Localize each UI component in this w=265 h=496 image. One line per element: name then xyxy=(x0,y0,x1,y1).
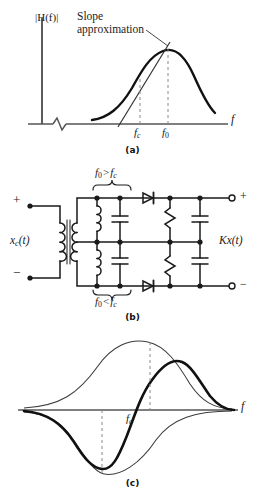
magnitude-response-curve xyxy=(92,50,215,120)
x-axis-label: f xyxy=(231,113,234,127)
filter-capacitor-upper xyxy=(192,198,208,242)
load-resistor-upper xyxy=(165,198,175,242)
transformer-secondary-coil-upper xyxy=(72,223,77,242)
tick-label-fc: fc xyxy=(126,412,133,426)
annotation-leader-line xyxy=(146,30,168,46)
output-terminal-minus-circle xyxy=(229,283,235,289)
upper-tank-brace xyxy=(93,180,131,190)
panel-b-caption: (b) xyxy=(0,312,265,322)
slope-approximation-annotation: Slope approximation xyxy=(77,10,144,36)
transformer-secondary-coil-lower xyxy=(71,242,77,261)
panel-b-circuit-diagram: + − xc(t) + − Kx(t) f0>fc f0<fc (b) xyxy=(0,168,265,328)
tank-capacitor-upper xyxy=(112,198,128,242)
lower-tank-frequency-label: f0<fc xyxy=(95,295,117,309)
input-wire-top xyxy=(30,206,60,223)
tick-label-f0: f0 xyxy=(162,126,169,140)
load-resistor-lower xyxy=(165,242,175,286)
output-terminal-plus-circle xyxy=(229,195,235,201)
zigzag-break-icon xyxy=(53,118,66,130)
tank-inductor-lower xyxy=(97,242,101,286)
slope-approximation-tangent xyxy=(118,42,170,127)
input-terminal-plus-label: + xyxy=(13,193,20,208)
panel-c-caption: (c) xyxy=(0,478,265,488)
filter-capacitor-lower xyxy=(192,242,208,286)
x-axis-label: f xyxy=(241,400,244,414)
input-terminal-minus-label: − xyxy=(13,266,20,281)
input-signal-label: xc(t) xyxy=(10,234,30,249)
output-terminal-plus-label: + xyxy=(240,190,247,204)
upper-response-curve xyxy=(24,341,232,409)
secondary-top-rail xyxy=(77,198,200,223)
output-terminal-minus-label: − xyxy=(240,278,247,292)
output-signal-label: Kx(t) xyxy=(219,234,243,247)
secondary-bottom-rail xyxy=(77,261,200,286)
y-axis-label: |H(f)| xyxy=(35,11,58,24)
tick-label-fc: fc xyxy=(134,126,141,140)
panel-a-magnitude-response: |H(f)| Slope approximation f fc f0 (a) xyxy=(0,0,265,168)
panel-a-caption: (a) xyxy=(0,145,265,155)
panel-b-schematic xyxy=(0,168,265,328)
upper-tank-frequency-label: f0>fc xyxy=(95,166,117,180)
tank-inductor-upper xyxy=(97,198,101,242)
input-wire-bottom xyxy=(30,261,60,278)
tank-capacitor-lower xyxy=(112,242,128,286)
panel-c-discriminator-curve: f fc (c) xyxy=(0,328,265,496)
transformer-primary-coil xyxy=(60,223,66,261)
